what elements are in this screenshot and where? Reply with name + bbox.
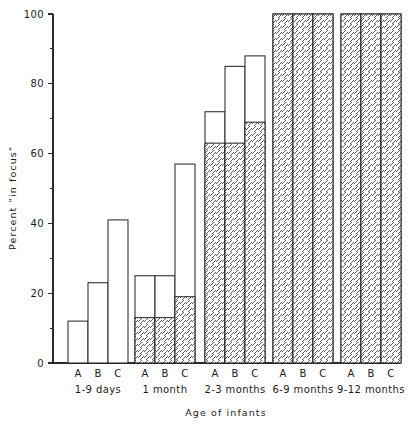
bar-hatched-1-month-A [135,318,155,363]
bar-letter-B: B [231,368,238,379]
y-tick-label: 20 [30,288,44,299]
bar-hatched-2-3-months-A [205,143,225,363]
bar-letter-C: C [114,368,121,379]
y-tick-label: 100 [24,9,44,20]
x-group-label: 9-12 months [337,384,405,395]
bar-hatched-9-12-months-B [361,14,381,363]
bar-hatched-2-3-months-B [225,143,245,363]
bar-hatched-6-9-months-B [293,14,313,363]
bar-letter-C: C [251,368,258,379]
bar-hatched-6-9-months-C [313,14,333,363]
bar-letter-C: C [319,368,326,379]
axis-labels-layer: ABC1-9 daysABC1 monthABC2-3 monthsABC6-9… [74,368,405,395]
bar-letter-A: A [141,368,148,379]
y-axis-title: Percent "in focus" [7,146,18,250]
chart-container: 020406080100 ABC1-9 daysABC1 monthABC2-3… [0,0,408,430]
x-group-label: 1-9 days [75,384,121,395]
x-group-label: 6-9 months [272,384,333,395]
bar-letter-B: B [94,368,101,379]
bar-total-1-9-days-B [88,283,108,363]
y-tick-label: 60 [30,148,44,159]
bar-hatched-1-month-B [155,318,175,363]
bar-hatched-2-3-months-C [245,122,265,363]
y-tick-label: 80 [30,78,44,89]
y-axis: 020406080100 [24,9,53,369]
bar-letter-B: B [299,368,306,379]
bar-hatched-6-9-months-A [273,14,293,363]
x-group-label: 1 month [143,384,188,395]
bar-hatched-9-12-months-A [341,14,361,363]
bar-total-1-9-days-A [68,321,88,363]
bar-letter-A: A [347,368,354,379]
bar-letter-A: A [279,368,286,379]
bar-letter-C: C [181,368,188,379]
bar-chart: 020406080100 ABC1-9 daysABC1 monthABC2-3… [0,0,408,430]
y-tick-label: 40 [30,218,44,229]
x-group-label: 2-3 months [204,384,265,395]
bar-letter-C: C [387,368,394,379]
bar-total-1-9-days-C [108,220,128,363]
bar-letter-A: A [211,368,218,379]
y-tick-label: 0 [37,358,44,369]
bar-letter-A: A [74,368,81,379]
bar-letter-B: B [161,368,168,379]
bars-layer [68,14,401,363]
bar-letter-B: B [367,368,374,379]
bar-hatched-1-month-C [175,297,195,363]
x-axis-title: Age of infants [185,407,267,418]
bar-hatched-9-12-months-C [381,14,401,363]
